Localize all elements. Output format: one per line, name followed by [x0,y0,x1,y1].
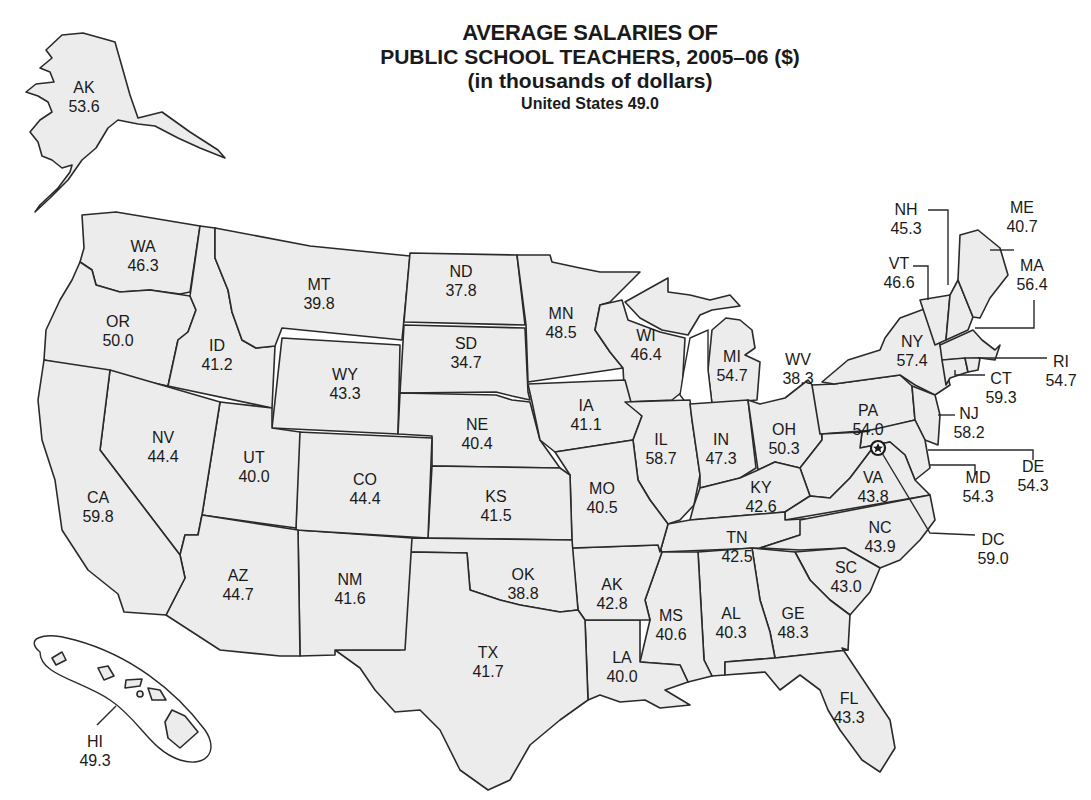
state-code: NJ [953,404,984,423]
state-code: IL [645,430,676,449]
state-label-ne: NE40.4 [461,415,492,453]
state-label-sc: SC43.0 [830,558,861,596]
state-salary-value: 41.5 [480,506,511,525]
state-code: CO [349,470,380,489]
state-label-fl: FL43.3 [833,689,864,727]
state-label-ma: MA56.4 [1016,256,1047,294]
state-label-in: IN47.3 [705,430,736,468]
state-salary-value: 43.0 [830,577,861,596]
state-label-hi: HI49.3 [79,732,110,770]
state-code: HI [79,732,110,751]
state-label-wy: WY43.3 [329,365,360,403]
state-salary-value: 58.7 [645,449,676,468]
state-code: NM [334,570,365,589]
state-code: AL [715,604,746,623]
state-label-nj: NJ58.2 [953,404,984,442]
state-label-md: MD54.3 [962,468,993,506]
state-salary-value: 48.3 [777,623,808,642]
state-salary-value: 54.0 [852,420,883,439]
state-code: MS [655,606,686,625]
state-salary-value: 41.7 [472,662,503,681]
state-label-wa: WA46.3 [127,237,158,275]
island-maui [148,688,166,700]
state-code: WY [329,365,360,384]
state-salary-value: 43.8 [857,487,888,506]
state-code: WI [630,326,661,345]
state-label-ak: AK53.6 [68,78,99,116]
state-code: DC [977,530,1008,549]
state-label-ri: RI54.7 [1045,352,1076,390]
state-label-tn: TN42.5 [721,528,752,566]
state-code: WA [127,237,158,256]
state-salary-value: 47.3 [705,449,736,468]
state-code: LA [606,648,637,667]
state-code: MO [586,479,617,498]
state-code: ND [445,262,476,281]
island-molokai [125,679,142,688]
state-salary-value: 37.8 [445,281,476,300]
state-salary-value: 39.8 [303,294,334,313]
star-icon [871,441,885,455]
state-label-ms: MS40.6 [655,606,686,644]
state-code: NC [864,518,895,537]
state-label-al: AL40.3 [715,604,746,642]
state-code: FL [833,689,864,708]
state-salary-value: 41.6 [334,589,365,608]
state-label-wv: WV38.3 [782,350,813,388]
state-salary-value: 46.4 [630,345,661,364]
state-salary-value: 59.3 [985,388,1016,407]
state-salary-value: 54.3 [962,487,993,506]
state-label-mt: MT39.8 [303,275,334,313]
hawaii-leader [97,706,116,725]
state-label-ny: NY57.4 [896,332,927,370]
state-label-or: OR50.0 [102,312,133,350]
state-code: VT [883,254,914,273]
state-label-co: CO44.4 [349,470,380,508]
state-code: KS [480,487,511,506]
state-label-ak: AK42.8 [596,575,627,613]
state-label-nh: NH45.3 [890,200,921,238]
state-salary-value: 45.3 [890,219,921,238]
state-salary-value: 46.6 [883,273,914,292]
state-code: DE [1017,457,1048,476]
state-label-nc: NC43.9 [864,518,895,556]
state-salary-value: 44.4 [147,447,178,466]
state-code: RI [1045,352,1076,371]
state-label-la: LA40.0 [606,648,637,686]
state-label-vt: VT46.6 [883,254,914,292]
state-code: NE [461,415,492,434]
state-label-tx: TX41.7 [472,643,503,681]
state-label-wi: WI46.4 [630,326,661,364]
state-salary-value: 46.3 [127,256,158,275]
state-code: SD [450,334,481,353]
state-label-dc: DC59.0 [977,530,1008,568]
state-code: NV [147,428,178,447]
state-label-nm: NM41.6 [334,570,365,608]
state-label-oh: OH50.3 [768,420,799,458]
state-salary-value: 54.7 [716,366,747,385]
state-label-pa: PA54.0 [852,401,883,439]
state-salary-value: 40.7 [1006,217,1037,236]
state-code: CT [985,369,1016,388]
island-oahu [98,666,114,680]
state-label-mi: MI54.7 [716,347,747,385]
state-salary-value: 50.0 [102,331,133,350]
state-salary-value: 53.6 [68,97,99,116]
state-salary-value: 40.3 [715,623,746,642]
state-salary-value: 54.3 [1017,476,1048,495]
state-label-id: ID41.2 [201,336,232,374]
state-label-nv: NV44.4 [147,428,178,466]
state-salary-value: 57.4 [896,351,927,370]
state-salary-value: 40.5 [586,498,617,517]
state-salary-value: 49.3 [79,751,110,770]
state-salary-value: 56.4 [1016,275,1047,294]
state-label-ks: KS41.5 [480,487,511,525]
state-code: MT [303,275,334,294]
state-code: WV [782,350,813,369]
state-salary-value: 42.5 [721,547,752,566]
state-code: TN [721,528,752,547]
state-code: ID [201,336,232,355]
state-salary-value: 41.2 [201,355,232,374]
state-salary-value: 41.1 [570,415,601,434]
state-code: AK [68,78,99,97]
